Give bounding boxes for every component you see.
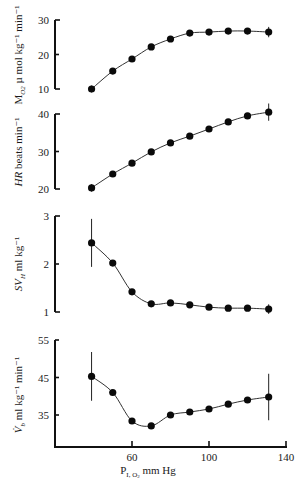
data-point <box>109 389 116 396</box>
data-point <box>167 139 174 146</box>
data-point <box>88 184 95 191</box>
data-point <box>225 401 232 408</box>
data-point <box>186 408 193 415</box>
data-point <box>128 160 135 167</box>
y-axis-label: MO2 µ mol kg⁻¹ min⁻¹ <box>12 5 27 104</box>
y-tick-label: 20 <box>38 183 50 195</box>
y-tick-label: 1 <box>44 306 50 318</box>
data-point <box>205 125 212 132</box>
multi-panel-chart: 102030MO2 µ mol kg⁻¹ min⁻¹203040HR beats… <box>0 0 296 483</box>
data-point <box>167 299 174 306</box>
data-point <box>244 396 251 403</box>
data-point <box>109 259 116 266</box>
x-axis-label-unit: mm Hg <box>140 464 177 476</box>
y-tick-label: 45 <box>38 372 50 384</box>
fit-line <box>92 31 269 89</box>
y-axis-label: V̇b ml kg⁻¹ min⁻¹ <box>12 357 27 433</box>
x-axis-label: PI, O2 mm Hg <box>120 464 176 479</box>
data-point <box>186 301 193 308</box>
y-tick-label: 30 <box>38 146 50 158</box>
data-point <box>109 67 116 74</box>
data-point <box>167 411 174 418</box>
fit-line <box>92 243 269 309</box>
panel-top: 102030MO2 µ mol kg⁻¹ min⁻¹ <box>12 5 272 104</box>
data-point <box>265 306 272 313</box>
data-point <box>186 133 193 140</box>
data-point <box>128 288 135 295</box>
data-point <box>205 28 212 35</box>
x-axis-label-sub: I, O <box>126 471 137 479</box>
x-tick-label: 100 <box>201 451 218 463</box>
panel-cardiac-output: 354555V̇b ml kg⁻¹ min⁻¹ <box>12 334 272 448</box>
data-point <box>109 170 116 177</box>
y-tick-label: 40 <box>38 108 50 120</box>
data-point <box>265 109 272 116</box>
x-axis: PI, O2 mm Hg 60100140 <box>55 441 295 479</box>
y-tick-label: 30 <box>38 14 50 26</box>
y-axis-label: SVH ml kg⁻¹ <box>12 237 27 292</box>
fit-line <box>92 376 269 426</box>
y-tick-label: 2 <box>44 258 50 270</box>
x-tick-label: 140 <box>278 451 295 463</box>
data-point <box>225 118 232 125</box>
y-tick-label: 55 <box>38 334 50 346</box>
data-point <box>88 373 95 380</box>
data-point <box>148 422 155 429</box>
data-point <box>244 27 251 34</box>
figure: 102030MO2 µ mol kg⁻¹ min⁻¹203040HR beats… <box>0 0 296 483</box>
data-point <box>148 148 155 155</box>
data-point <box>225 305 232 312</box>
panel-heart-rate: 203040HR beats min⁻¹ <box>12 104 272 196</box>
y-tick-label: 20 <box>38 49 50 61</box>
data-point <box>225 27 232 34</box>
data-point <box>244 112 251 119</box>
fit-line <box>92 112 269 188</box>
y-tick-label: 10 <box>38 83 50 95</box>
y-tick-label: 3 <box>44 210 50 222</box>
data-point <box>205 304 212 311</box>
panel-stroke-volume: 123SVH ml kg⁻¹ <box>12 210 272 318</box>
x-tick-label: 60 <box>127 451 139 463</box>
data-point <box>128 417 135 424</box>
data-point <box>88 85 95 92</box>
data-point <box>265 28 272 35</box>
data-point <box>265 393 272 400</box>
y-tick-label: 35 <box>38 409 50 421</box>
data-point <box>88 239 95 246</box>
data-point <box>205 405 212 412</box>
data-point <box>244 305 251 312</box>
y-axis-label: HR beats min⁻¹ <box>12 118 24 188</box>
data-point <box>167 35 174 42</box>
data-point <box>148 43 155 50</box>
panels: 102030MO2 µ mol kg⁻¹ min⁻¹203040HR beats… <box>12 5 272 448</box>
data-point <box>148 300 155 307</box>
data-point <box>186 30 193 37</box>
data-point <box>128 55 135 62</box>
